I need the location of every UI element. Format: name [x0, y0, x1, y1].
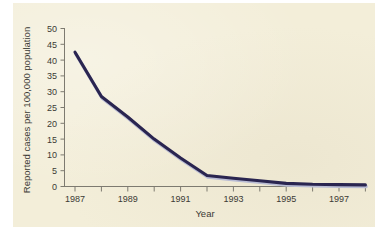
- series-line-shadow: [76, 54, 366, 187]
- y-tick-label: 20: [47, 119, 57, 129]
- x-tick-label: 1987: [65, 194, 85, 204]
- chart-figure: Reported cases per 100,000 population 50…: [0, 0, 392, 241]
- y-tick-label: 5: [52, 166, 57, 176]
- y-axis-tick-labels: 50 45 40 35 30 25 20 15 10 5 0: [47, 24, 57, 192]
- y-tick-label: 35: [47, 71, 57, 81]
- line-chart-plot: Reported cases per 100,000 population 50…: [0, 0, 392, 241]
- x-tick-label: 1991: [171, 194, 191, 204]
- x-tick-label: 1997: [329, 194, 349, 204]
- y-tick-label: 0: [52, 182, 57, 192]
- x-tick-label: 1995: [276, 194, 296, 204]
- y-tick-label: 30: [47, 87, 57, 97]
- x-tick-label: 1989: [118, 194, 138, 204]
- y-axis-title: Reported cases per 100,000 population: [21, 27, 32, 193]
- x-tick-label: 1993: [223, 194, 243, 204]
- y-axis-tick-marks: [61, 29, 65, 187]
- y-tick-label: 15: [47, 135, 57, 145]
- y-tick-label: 10: [47, 150, 57, 160]
- y-tick-label: 40: [47, 56, 57, 66]
- y-tick-label: 45: [47, 40, 57, 50]
- series-line-reported-cases: [75, 52, 365, 185]
- y-tick-label: 25: [47, 103, 57, 113]
- y-tick-label: 50: [47, 24, 57, 34]
- x-axis-title: Year: [195, 208, 214, 219]
- x-axis-tick-labels: 1987 1989 1991 1993 1995 1997: [65, 194, 349, 204]
